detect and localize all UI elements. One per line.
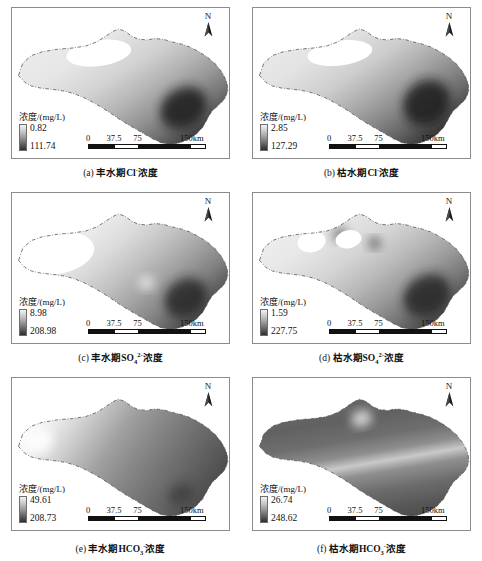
panel-caption-b: (b) 枯水期Cl-浓度 <box>241 165 482 179</box>
legend-body: 1.59 227.75 <box>260 309 306 336</box>
caption-subscript: 4 <box>375 358 378 365</box>
legend-min-value: 49.61 <box>30 496 56 506</box>
caption-index: (c) <box>78 353 89 363</box>
legend-body: 49.61 208.73 <box>19 496 65 523</box>
map-panel-e: N 浓度/(mg/L) 49.61 208.73 037.575150km <box>0 370 241 561</box>
scale-bar-labels: 037.575150km <box>329 318 447 329</box>
caption-species: 丰水期HCO <box>88 544 140 554</box>
north-arrow: N <box>440 12 458 37</box>
legend-color-ramp <box>19 309 27 336</box>
legend-values: 2.85 127.29 <box>271 124 297 151</box>
scale-bar: 037.575150km <box>88 133 206 149</box>
north-arrow-label: N <box>440 197 458 206</box>
north-arrow-icon <box>204 22 213 37</box>
legend-color-ramp <box>260 309 268 336</box>
caption-suffix: 浓度 <box>386 544 406 554</box>
legend-max-value: 248.62 <box>271 514 297 524</box>
scale-tick: 150km <box>180 318 204 328</box>
map-frame-c: N 浓度/(mg/L) 8.98 208.98 037.575150km <box>11 192 230 344</box>
legend-max-value: 127.29 <box>271 142 297 152</box>
north-arrow-label: N <box>440 382 458 391</box>
scale-tick: 0 <box>86 505 90 515</box>
legend-max-value: 208.73 <box>30 514 56 524</box>
scale-tick: 0 <box>86 318 90 328</box>
north-arrow-label: N <box>199 382 217 391</box>
scale-tick: 75 <box>374 133 383 143</box>
caption-subscript: 3 <box>140 549 143 556</box>
legend-color-ramp <box>260 496 268 523</box>
map-frame-b: N 浓度/(mg/L) 2.85 127.29 037.575150km <box>252 7 471 159</box>
map-frame-f: N 浓度/(mg/L) 26.74 248.62 037.575150km <box>252 377 471 531</box>
north-arrow-icon <box>445 392 454 407</box>
caption-species: 枯水期HCO <box>329 544 381 554</box>
caption-index: (e) <box>76 544 87 554</box>
panel-caption-a: (a) 丰水期Cl-浓度 <box>0 165 241 179</box>
legend-body: 26.74 248.62 <box>260 496 306 523</box>
caption-index: (b) <box>324 168 335 178</box>
legend-max-value: 208.98 <box>30 327 56 337</box>
legend-body: 8.98 208.98 <box>19 309 65 336</box>
caption-index: (f) <box>317 544 327 554</box>
panel-caption-d: (d) 枯水期SO42-浓度 <box>241 350 482 364</box>
legend-a: 浓度/(mg/L) 0.82 111.74 <box>19 113 65 151</box>
legend-d: 浓度/(mg/L) 1.59 227.75 <box>260 298 306 336</box>
north-arrow: N <box>199 382 217 407</box>
scale-tick: 150km <box>421 318 445 328</box>
caption-subscript: 3 <box>381 549 384 556</box>
caption-suffix: 浓度 <box>384 353 404 363</box>
caption-suffix: 浓度 <box>145 544 165 554</box>
caption-species: 丰水期SO <box>91 353 134 363</box>
scale-bar: 037.575150km <box>329 133 447 149</box>
scale-tick: 0 <box>86 133 90 143</box>
scale-tick: 37.5 <box>348 318 363 328</box>
legend-c: 浓度/(mg/L) 8.98 208.98 <box>19 298 65 336</box>
caption-suffix: 浓度 <box>143 353 163 363</box>
scale-tick: 75 <box>133 318 142 328</box>
panel-caption-c: (c) 丰水期SO42-浓度 <box>0 350 241 364</box>
legend-min-value: 0.82 <box>30 124 55 134</box>
scale-tick: 37.5 <box>107 318 122 328</box>
scale-tick: 150km <box>421 505 445 515</box>
panel-caption-e: (e) 丰水期HCO3-浓度 <box>0 541 241 555</box>
map-frame-e: N 浓度/(mg/L) 49.61 208.73 037.575150km <box>11 377 230 531</box>
scale-tick: 37.5 <box>107 505 122 515</box>
scale-tick: 0 <box>327 318 331 328</box>
scale-bar-track <box>329 329 447 334</box>
scale-tick: 75 <box>374 505 383 515</box>
legend-title: 浓度/(mg/L) <box>19 298 65 307</box>
scale-bar: 037.575150km <box>329 505 447 521</box>
scale-tick: 75 <box>374 318 383 328</box>
scale-tick: 75 <box>133 505 142 515</box>
scale-bar: 037.575150km <box>88 318 206 334</box>
legend-title: 浓度/(mg/L) <box>260 485 306 494</box>
legend-values: 8.98 208.98 <box>30 309 56 336</box>
scale-bar-track <box>88 516 206 521</box>
map-frame-a: N 浓度/(mg/L) 0.82 111.74 037.575150km <box>11 7 230 159</box>
legend-b: 浓度/(mg/L) 2.85 127.29 <box>260 113 306 151</box>
caption-species: 丰水期Cl <box>96 168 136 178</box>
caption-index: (a) <box>83 168 94 178</box>
scale-tick: 37.5 <box>348 133 363 143</box>
caption-suffix: 浓度 <box>379 168 399 178</box>
map-panel-b: N 浓度/(mg/L) 2.85 127.29 037.575150km <box>241 0 482 185</box>
north-arrow: N <box>199 197 217 222</box>
scale-tick: 150km <box>421 133 445 143</box>
scale-bar-track <box>88 144 206 149</box>
legend-title: 浓度/(mg/L) <box>260 298 306 307</box>
north-arrow-icon <box>445 22 454 37</box>
scale-bar-track <box>329 144 447 149</box>
scale-bar: 037.575150km <box>88 505 206 521</box>
scale-bar-labels: 037.575150km <box>88 318 206 329</box>
legend-body: 0.82 111.74 <box>19 124 65 151</box>
scale-tick: 37.5 <box>348 505 363 515</box>
legend-values: 26.74 248.62 <box>271 496 297 523</box>
legend-max-value: 111.74 <box>30 142 55 152</box>
map-frame-d: N 浓度/(mg/L) 1.59 227.75 037.575150km <box>252 192 471 344</box>
north-arrow-label: N <box>440 12 458 21</box>
caption-species: 枯水期SO <box>333 353 376 363</box>
north-arrow-icon <box>204 392 213 407</box>
north-arrow-label: N <box>199 12 217 21</box>
figure-container: N 浓度/(mg/L) 0.82 111.74 037.575150km <box>0 0 482 561</box>
legend-title: 浓度/(mg/L) <box>19 113 65 122</box>
map-panel-c: N 浓度/(mg/L) 8.98 208.98 037.575150km <box>0 185 241 370</box>
